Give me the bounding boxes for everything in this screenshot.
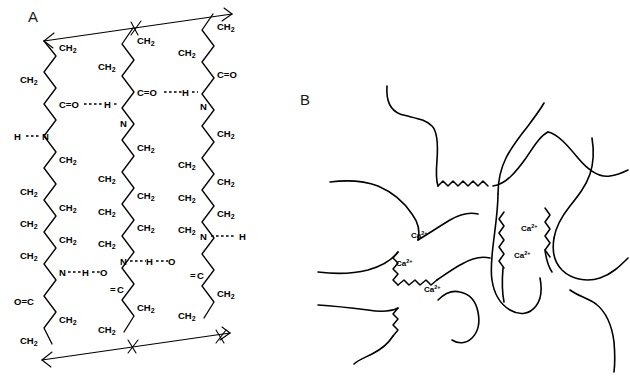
atom-mid-2: C=O [137,87,157,98]
chain-b-8 [570,290,615,372]
hbond-4-h: H [146,256,153,267]
atom-mid-3: N [120,118,127,129]
ion-label-3: Ca2+ [521,223,538,233]
atom-left-11: O=C [14,296,34,307]
hydrogen-bonds: H H H O H O [68,87,198,278]
atom-mid-7: CH2 [98,206,116,218]
chain-b-14 [354,336,393,364]
chain-middle: CH2 CH2 C=O N CH2 CH2 CH2 CH2 CH2 CH2 N … [98,28,157,336]
atom-left-3: H [14,131,21,142]
crosslink-zigzag-5 [545,208,550,257]
hbond-4-o: O [168,256,175,267]
scientific-figure: A [0,0,630,385]
hbond-3-h: H [82,267,89,278]
crosslink-zigzag-1 [393,252,398,285]
atom-right-8: CH2 [217,208,235,220]
hbond-1-h: H [104,99,111,110]
atom-left-10: N [59,267,66,278]
crosslink-zigzag-top [438,181,488,186]
atom-left-8: CH2 [59,234,77,246]
atom-mid-8: CH2 [137,222,155,234]
atom-mid-0: CH2 [137,35,155,47]
atom-mid-10: N [120,256,127,267]
atom-right-1: CH2 [178,47,196,59]
atom-right-7: CH2 [178,192,196,204]
atom-mid-5: CH2 [98,173,116,185]
atom-right-10-h: H [239,231,246,242]
atom-left-5: CH2 [20,186,38,198]
ion-label-0: Ca2+ [411,230,428,240]
ion-labels: Ca2+ Ca2+ Ca2+ Ca2+ Ca2+ [396,223,538,294]
atom-right-11-bond: = [190,270,196,281]
chain-b-7 [553,238,628,280]
atom-left-4: CH2 [59,154,77,166]
atom-right-3: N [200,101,207,112]
atom-right-0: CH2 [217,21,235,33]
chain-b-9 [330,181,419,240]
atom-mid-4: CH2 [137,142,155,154]
ion-label-4: Ca2+ [514,250,531,260]
atom-mid-13: CH2 [98,324,116,336]
chain-b-2 [493,132,548,186]
atom-left-0: CH2 [59,42,77,54]
atom-right-2: C=O [217,69,237,80]
atom-mid-11-bond: = [110,284,116,295]
chain-b-12 [437,257,490,280]
atom-right-10: N [200,231,207,242]
ion-label-1: Ca2+ [396,258,413,268]
ion-label-2: Ca2+ [424,284,441,294]
chain-b-1 [387,86,438,186]
crosslink-zigzag-3 [393,308,398,336]
atom-left-7: CH2 [20,218,38,230]
atom-mid-12: CH2 [137,302,155,314]
chain-b-15 [438,291,479,342]
atom-left-13: CH2 [20,335,38,347]
chain-b-17 [545,250,552,272]
atom-right-6: CH2 [217,176,235,188]
atom-left-9: CH2 [20,250,38,262]
atom-right-13: CH2 [178,310,196,322]
atom-mid-9: CH2 [98,238,116,250]
hbond-2-h: H [182,87,189,98]
atom-left-2: C=O [59,99,79,110]
panel-a: A [14,8,246,367]
atom-left-6: CH2 [59,202,77,214]
chain-b-10 [318,252,398,273]
atom-left-1: CH2 [20,74,38,86]
chain-right: CH2 CH2 C=O N CH2 CH2 CH2 CH2 CH2 CH2 N … [178,14,246,322]
crosslink-zigzag-4 [499,212,504,268]
atom-mid-11: C [117,284,124,295]
hbond-3-o: O [100,267,107,278]
panel-b-label: B [300,91,310,108]
chain-b-5 [548,132,628,176]
chain-b-13 [318,305,398,311]
atom-right-5: CH2 [178,159,196,171]
atom-left-3b: N [42,131,49,142]
frame-bottom [42,327,230,367]
panel-a-label: A [28,8,38,25]
chain-b-16 [502,268,504,302]
atom-right-12: CH2 [217,288,235,300]
atom-right-9: CH2 [178,224,196,236]
atom-right-4: CH2 [217,128,235,140]
atom-mid-6: CH2 [137,190,155,202]
atom-left-12: CH2 [59,314,77,326]
atom-right-11: C [197,270,204,281]
atom-mid-1: CH2 [98,61,116,73]
chain-left: CH2 CH2 C=O H N CH2 CH2 CH2 CH2 CH2 CH2 … [14,41,79,347]
panel-b: B [300,86,628,372]
